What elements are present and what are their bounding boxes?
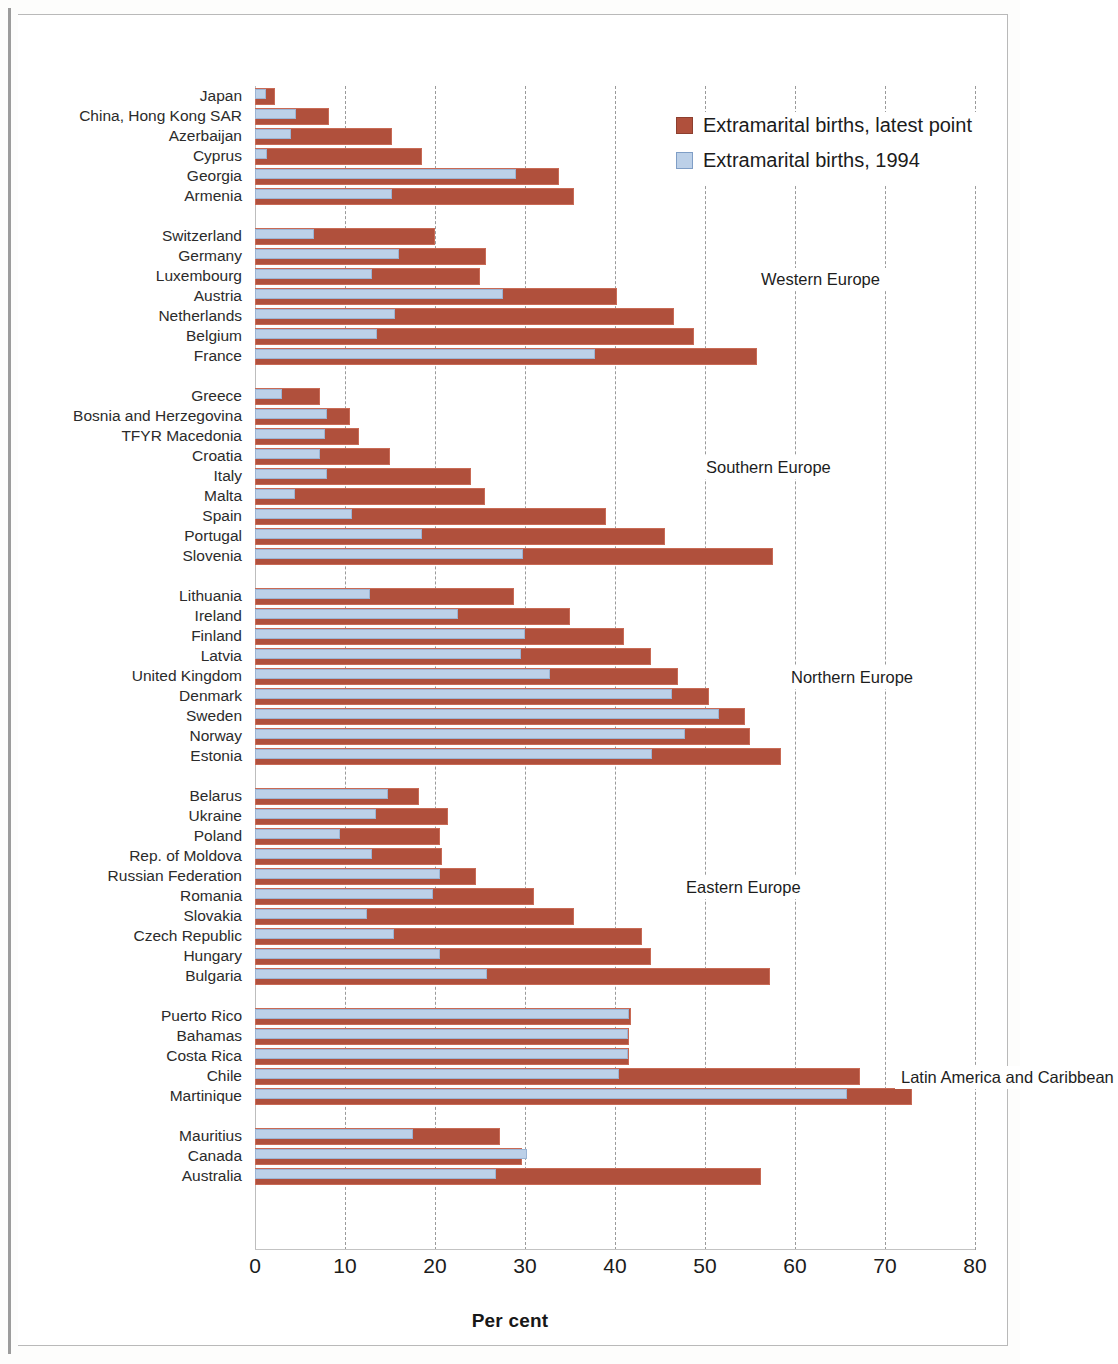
category-label: Martinique <box>170 1088 242 1104</box>
group-annotation: Eastern Europe <box>680 876 807 899</box>
bar-row <box>255 966 975 986</box>
category-label: Estonia <box>190 748 242 764</box>
category-label: Sweden <box>186 708 242 724</box>
x-tick-70: 70 <box>873 1254 896 1278</box>
category-label: Japan <box>200 88 242 104</box>
bar-1994 <box>255 589 370 599</box>
bar-row <box>255 806 975 826</box>
x-tick-50: 50 <box>693 1254 716 1278</box>
bar-row <box>255 946 975 966</box>
category-label: Spain <box>202 508 242 524</box>
bar-1994 <box>255 469 327 479</box>
bar-row <box>255 586 975 606</box>
bar-row <box>255 786 975 806</box>
bar-row <box>255 226 975 246</box>
bar-row <box>255 246 975 266</box>
bar-row <box>255 726 975 746</box>
bar-row <box>255 926 975 946</box>
category-label: Luxembourg <box>156 268 242 284</box>
category-label: Azerbaijan <box>169 128 242 144</box>
bar-1994 <box>255 789 388 799</box>
category-label: Romania <box>180 888 242 904</box>
category-label: Armenia <box>184 188 242 204</box>
category-axis-labels: JapanChina, Hong Kong SARAzerbaijanCypru… <box>0 86 250 1250</box>
category-label: Bosnia and Herzegovina <box>73 408 242 424</box>
bar-1994 <box>255 829 340 839</box>
x-tick-80: 80 <box>963 1254 986 1278</box>
bar-row <box>255 406 975 426</box>
bar-row <box>255 346 975 366</box>
bar-1994 <box>255 649 521 659</box>
bar-row <box>255 1086 975 1106</box>
category-label: Mauritius <box>179 1128 242 1144</box>
category-label: Croatia <box>192 448 242 464</box>
bar-row <box>255 646 975 666</box>
x-tick-40: 40 <box>603 1254 626 1278</box>
bar-row <box>255 486 975 506</box>
group-annotation: Latin America and Caribbean <box>895 1066 1118 1089</box>
bar-row <box>255 1066 975 1086</box>
bar-1994 <box>255 1129 413 1139</box>
category-label: France <box>194 348 242 364</box>
category-label: Chile <box>207 1068 242 1084</box>
bar-1994 <box>255 189 392 199</box>
bar-row <box>255 706 975 726</box>
legend-item-1994: Extramarital births, 1994 <box>676 149 972 172</box>
bar-row <box>255 186 975 206</box>
bar-1994 <box>255 1149 527 1159</box>
category-label: Germany <box>178 248 242 264</box>
category-label: Denmark <box>179 688 242 704</box>
bar-row <box>255 906 975 926</box>
x-axis-title: Per cent <box>0 1310 1020 1332</box>
bar-1994 <box>255 509 352 519</box>
category-label: Russian Federation <box>108 868 242 884</box>
bar-row <box>255 1146 975 1166</box>
bar-1994 <box>255 529 422 539</box>
bar-row <box>255 746 975 766</box>
bar-1994 <box>255 129 291 139</box>
category-label: Finland <box>191 628 242 644</box>
bar-1994 <box>255 309 395 319</box>
bar-1994 <box>255 169 516 179</box>
bar-1994 <box>255 909 367 919</box>
category-label: China, Hong Kong SAR <box>79 108 242 124</box>
bar-row <box>255 1006 975 1026</box>
chart-legend: Extramarital births, latest point Extram… <box>672 112 976 186</box>
bar-1994 <box>255 289 503 299</box>
category-label: Bahamas <box>177 1028 242 1044</box>
bar-row <box>255 1046 975 1066</box>
category-label: Georgia <box>187 168 242 184</box>
bar-1994 <box>255 229 314 239</box>
group-annotation: Northern Europe <box>785 666 919 689</box>
category-label: Belarus <box>189 788 242 804</box>
bar-row <box>255 526 975 546</box>
bar-1994 <box>255 1069 619 1079</box>
bar-row <box>255 446 975 466</box>
legend-label-latest: Extramarital births, latest point <box>703 114 972 137</box>
category-label: Slovakia <box>183 908 242 924</box>
bar-1994 <box>255 389 282 399</box>
category-label: Belgium <box>186 328 242 344</box>
group-annotation: Western Europe <box>755 268 886 291</box>
category-label: Ukraine <box>189 808 242 824</box>
bar-1994 <box>255 849 372 859</box>
bar-1994 <box>255 1029 628 1039</box>
bar-row <box>255 326 975 346</box>
bar-row <box>255 426 975 446</box>
bar-1994 <box>255 969 487 979</box>
category-label: Australia <box>182 1168 242 1184</box>
bar-row <box>255 86 975 106</box>
category-label: Bulgaria <box>185 968 242 984</box>
bar-1994 <box>255 1089 847 1099</box>
x-tick-30: 30 <box>513 1254 536 1278</box>
bar-1994 <box>255 449 320 459</box>
x-tick-10: 10 <box>333 1254 356 1278</box>
bar-row <box>255 546 975 566</box>
bar-1994 <box>255 409 327 419</box>
category-label: Austria <box>194 288 242 304</box>
bar-1994 <box>255 809 376 819</box>
category-label: Italy <box>214 468 242 484</box>
bar-row <box>255 626 975 646</box>
category-label: Lithuania <box>179 588 242 604</box>
bar-1994 <box>255 1169 496 1179</box>
